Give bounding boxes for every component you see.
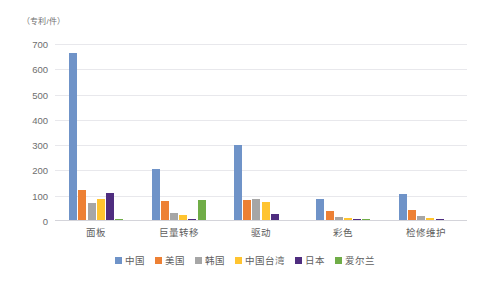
bar-slot — [78, 44, 86, 221]
bar-group — [385, 44, 467, 221]
y-axis-tick-label: 200 — [14, 165, 48, 176]
legend-swatch-icon — [155, 257, 162, 264]
bar[interactable] — [106, 193, 114, 221]
y-axis-unit-label: （专利/件） — [22, 15, 65, 26]
bar[interactable] — [234, 145, 242, 221]
chart-legend: 中国美国韩国中国台湾日本爱尔兰 — [0, 253, 490, 267]
bar-slot — [445, 44, 453, 221]
legend-swatch-icon — [115, 257, 122, 264]
legend-item-label: 韩国 — [205, 253, 225, 267]
bar[interactable] — [316, 199, 324, 221]
bar-slot — [152, 44, 160, 221]
y-axis-tick-label: 400 — [14, 114, 48, 125]
bar-chart: （专利/件） 7006005004003002001000 面板巨量转移驱动彩色… — [0, 0, 490, 285]
bar-slot — [335, 44, 343, 221]
bar-slot — [198, 44, 206, 221]
legend-item[interactable]: 美国 — [155, 253, 185, 267]
bar-slot — [188, 44, 196, 221]
bar-slot — [426, 44, 434, 221]
bar-slot — [161, 44, 169, 221]
legend-item-label: 爱尔兰 — [345, 253, 375, 267]
bar-slot — [408, 44, 416, 221]
legend-item[interactable]: 中国 — [115, 253, 145, 267]
x-axis-category-label: 检修维护 — [385, 225, 467, 239]
x-axis-category-label: 面板 — [55, 225, 137, 239]
x-axis-line — [55, 220, 467, 221]
bar-slot — [243, 44, 251, 221]
legend-item[interactable]: 中国台湾 — [235, 253, 285, 267]
y-axis-tick-labels: 7006005004003002001000 — [14, 44, 48, 221]
legend-item[interactable]: 韩国 — [195, 253, 225, 267]
legend-item[interactable]: 日本 — [295, 253, 325, 267]
bar[interactable] — [198, 200, 206, 221]
bar-slot — [271, 44, 279, 221]
bar[interactable] — [262, 202, 270, 221]
x-axis-category-label: 彩色 — [302, 225, 384, 239]
bar-slot — [417, 44, 425, 221]
y-axis-tick-label: 300 — [14, 140, 48, 151]
bar-group — [137, 44, 219, 221]
legend-swatch-icon — [295, 257, 302, 264]
legend-swatch-icon — [195, 257, 202, 264]
y-axis-tick-label: 500 — [14, 89, 48, 100]
legend-item[interactable]: 爱尔兰 — [335, 253, 375, 267]
bar-slot — [234, 44, 242, 221]
legend-item-label: 日本 — [305, 253, 325, 267]
bar[interactable] — [69, 53, 77, 221]
bar-slot — [344, 44, 352, 221]
bar[interactable] — [88, 203, 96, 221]
x-axis-category-label: 巨量转移 — [137, 225, 219, 239]
bar-group — [302, 44, 384, 221]
bar-slot — [326, 44, 334, 221]
bar-slot — [88, 44, 96, 221]
legend-swatch-icon — [235, 257, 242, 264]
bar-slot — [436, 44, 444, 221]
legend-item-label: 美国 — [165, 253, 185, 267]
bar[interactable] — [243, 200, 251, 221]
bar-slot — [170, 44, 178, 221]
bar-group — [55, 44, 137, 221]
bar-slot — [69, 44, 77, 221]
x-axis-category-labels: 面板巨量转移驱动彩色检修维护 — [55, 225, 467, 239]
bar[interactable] — [97, 199, 105, 221]
bar-group — [220, 44, 302, 221]
bar[interactable] — [152, 169, 160, 221]
bar[interactable] — [252, 199, 260, 221]
bar-slot — [353, 44, 361, 221]
y-axis-tick-label: 0 — [14, 216, 48, 227]
y-axis-tick-label: 100 — [14, 190, 48, 201]
y-axis-tick-label: 600 — [14, 64, 48, 75]
bar-slot — [399, 44, 407, 221]
bar-groups — [55, 44, 467, 221]
bar[interactable] — [78, 190, 86, 221]
bar[interactable] — [161, 201, 169, 221]
bar-slot — [280, 44, 288, 221]
bar-slot — [106, 44, 114, 221]
legend-item-label: 中国台湾 — [245, 253, 285, 267]
bar-slot — [362, 44, 370, 221]
bar-slot — [115, 44, 123, 221]
y-axis-tick-label: 700 — [14, 39, 48, 50]
x-axis-category-label: 驱动 — [220, 225, 302, 239]
legend-swatch-icon — [335, 257, 342, 264]
bar[interactable] — [399, 194, 407, 221]
bar-slot — [316, 44, 324, 221]
bar-slot — [262, 44, 270, 221]
bar-slot — [179, 44, 187, 221]
bar-slot — [97, 44, 105, 221]
legend-item-label: 中国 — [125, 253, 145, 267]
plot-area — [55, 44, 467, 221]
bar-slot — [252, 44, 260, 221]
